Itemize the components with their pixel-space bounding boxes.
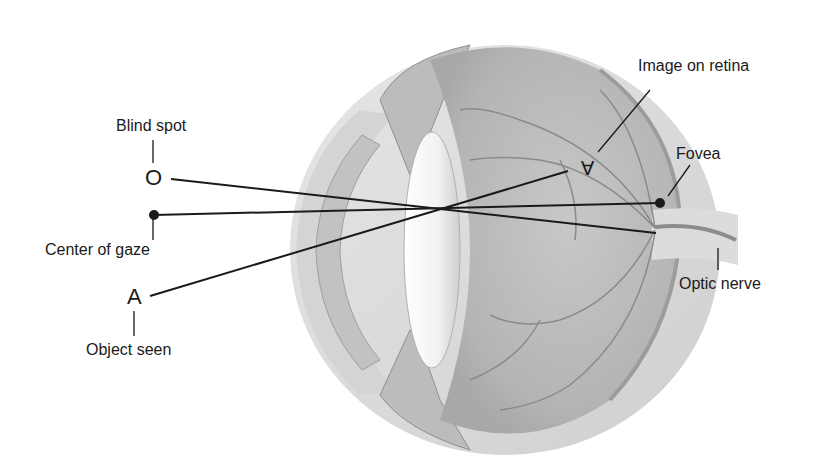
optic-nerve-shape [652,208,738,265]
fovea-label: Fovea [676,146,720,162]
optic-nerve-label: Optic nerve [679,276,761,292]
lens [404,132,460,368]
fovea-dot [655,198,665,208]
image-on-retina-label: Image on retina [638,58,749,74]
blind-spot-label: Blind spot [116,118,186,134]
object-marker: A [127,286,142,308]
center-of-gaze-dot [149,210,159,220]
eye-diagram: Blind spot O Center of gaze A Object see… [0,0,827,471]
object-seen-label: Object seen [86,342,171,358]
blind-spot-marker: O [145,167,162,189]
inverted-retina-image: A [581,158,594,178]
center-of-gaze-label: Center of gaze [45,242,150,258]
